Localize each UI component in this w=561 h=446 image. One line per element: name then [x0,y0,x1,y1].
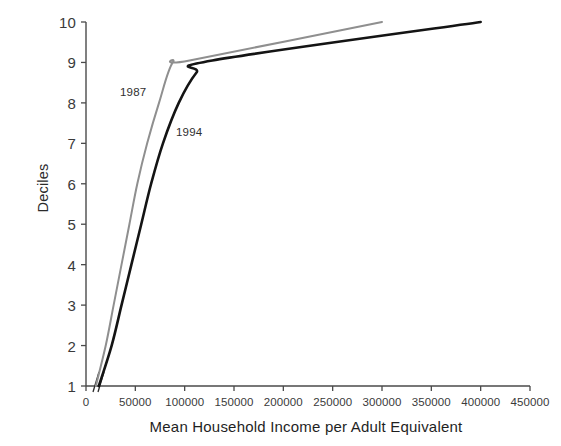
y-tick-label: 10 [40,14,76,31]
x-tick-label: 150000 [215,396,254,408]
x-tick-label: 200000 [264,396,303,408]
x-tick-label: 250000 [313,396,352,408]
chart-series-group [96,22,481,386]
series-label-1987: 1987 [120,86,146,98]
y-tick-label: 9 [40,54,76,71]
chart-figure: 12345678910 0500001000001500002000002500… [0,0,561,446]
x-axis-ticks [86,386,530,391]
x-tick-label: 400000 [461,396,500,408]
y-axis-title: Deciles [35,153,51,223]
y-tick-label: 8 [40,94,76,111]
series-line-1994 [99,22,481,386]
x-tick-label: 350000 [412,396,451,408]
series-line-1987 [96,22,382,386]
x-tick-label: 50000 [119,396,151,408]
y-tick-label: 2 [40,337,76,354]
y-tick-label: 1 [40,378,76,395]
x-tick-label: 0 [83,396,90,408]
x-tick-label: 450000 [511,396,550,408]
y-tick-label: 7 [40,135,76,152]
x-tick-label: 300000 [363,396,402,408]
y-axis-ticks [81,22,86,386]
chart-plot-area [0,0,561,446]
x-axis-title: Mean Household Income per Adult Equivale… [86,418,526,435]
x-tick-label: 100000 [165,396,204,408]
series-label-1994: 1994 [176,126,202,138]
y-tick-label: 4 [40,256,76,273]
y-tick-label: 3 [40,297,76,314]
